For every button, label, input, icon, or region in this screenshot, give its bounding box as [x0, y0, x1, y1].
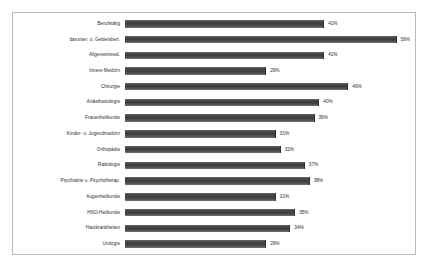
bar-value-label: 38% [310, 178, 323, 184]
bar-row: Orthopädie32% [13, 143, 415, 157]
bar-track: 34% [125, 222, 415, 236]
bar-row: Hautkrankheiten34% [13, 222, 415, 236]
bar [125, 99, 319, 107]
bar [125, 177, 310, 185]
bar-value-label: 29% [266, 68, 279, 74]
category-label: Kinder- u. Jugendmedizin [13, 131, 125, 137]
category-label: Berufstätig [13, 21, 125, 27]
bar [125, 67, 266, 75]
bar [125, 193, 276, 201]
bar [125, 52, 324, 60]
bar-value-label: 29% [266, 241, 279, 247]
bar-value-label: 56% [397, 37, 410, 43]
bar-track: 35% [125, 206, 415, 220]
category-label: darunter: o. Gebietsbez. [13, 37, 125, 43]
bar [125, 20, 324, 28]
bar-value-label: 46% [348, 84, 361, 90]
bar-track: 29% [125, 64, 415, 78]
bar-value-label: 41% [324, 21, 337, 27]
bar-track: 37% [125, 159, 415, 173]
bar-row: Urologie29% [13, 237, 415, 251]
bar [125, 225, 290, 233]
bar [125, 36, 397, 44]
bar-row: darunter: o. Gebietsbez.56% [13, 33, 415, 47]
bar [125, 240, 266, 248]
bar [125, 83, 348, 91]
category-label: Orthopädie [13, 147, 125, 153]
bar-value-label: 34% [290, 225, 303, 231]
bar-track: 31% [125, 127, 415, 141]
category-label: Hautkrankheiten [13, 225, 125, 231]
category-label: Augenheilkunde [13, 194, 125, 200]
bar-track: 39% [125, 111, 415, 125]
bar [125, 130, 276, 138]
bar-track: 41% [125, 17, 415, 31]
category-label: Frauenheilkunde [13, 115, 125, 121]
category-label: Anästhesiologie [13, 99, 125, 105]
bar-value-label: 39% [315, 115, 328, 121]
category-label: Chirurgie [13, 84, 125, 90]
bar-value-label: 37% [305, 162, 318, 168]
category-label: Psychiatrie u. Psychotherap. [13, 178, 125, 184]
bar-row: Kinder- u. Jugendmedizin31% [13, 127, 415, 141]
chart-frame: Berufstätig41%darunter: o. Gebietsbez.56… [12, 12, 416, 255]
bar [125, 114, 315, 122]
bar-track: 41% [125, 48, 415, 62]
bar-track: 31% [125, 190, 415, 204]
bar-value-label: 31% [276, 131, 289, 137]
bar-track: 29% [125, 237, 415, 251]
chart-plot-area: Berufstätig41%darunter: o. Gebietsbez.56… [13, 13, 415, 254]
bar-track: 38% [125, 174, 415, 188]
bar-value-label: 31% [276, 194, 289, 200]
bar-row: Chirurgie46% [13, 80, 415, 94]
category-label: HNO-Heilkunde [13, 210, 125, 216]
bar-row: Radiologie37% [13, 159, 415, 173]
bar-value-label: 35% [295, 210, 308, 216]
category-label: Allgemeinmed. [13, 52, 125, 58]
bar [125, 209, 295, 217]
bar-row: Innere Medizin29% [13, 64, 415, 78]
bar-row: Berufstätig41% [13, 17, 415, 31]
category-label: Radiologie [13, 162, 125, 168]
bar [125, 146, 281, 154]
bar-track: 56% [125, 33, 415, 47]
bar-row: Anästhesiologie40% [13, 96, 415, 110]
bar-row: Augenheilkunde31% [13, 190, 415, 204]
bar-track: 40% [125, 96, 415, 110]
bar [125, 162, 305, 170]
bar-track: 46% [125, 80, 415, 94]
bar-value-label: 40% [319, 99, 332, 105]
category-label: Innere Medizin [13, 68, 125, 74]
bar-row: Frauenheilkunde39% [13, 111, 415, 125]
bar-value-label: 32% [281, 147, 294, 153]
bar-row: Psychiatrie u. Psychotherap.38% [13, 174, 415, 188]
bar-value-label: 41% [324, 52, 337, 58]
category-label: Urologie [13, 241, 125, 247]
bar-track: 32% [125, 143, 415, 157]
bar-row: Allgemeinmed.41% [13, 48, 415, 62]
bar-row: HNO-Heilkunde35% [13, 206, 415, 220]
